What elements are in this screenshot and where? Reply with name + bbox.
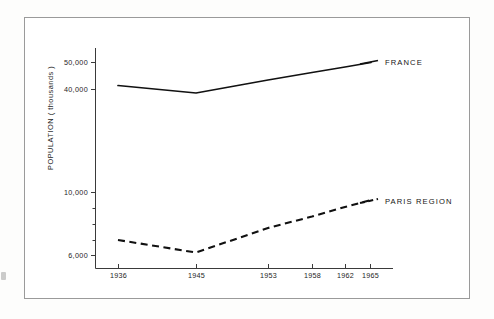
series-line-france bbox=[118, 63, 371, 94]
x-axis-label-1945: 1945 bbox=[188, 271, 205, 280]
series-line-paris-region bbox=[118, 200, 371, 253]
x-axis-label-1962: 1962 bbox=[337, 271, 354, 280]
y-axis-title: POPULATION ( thousands ) bbox=[46, 66, 55, 170]
x-axis-label-1936: 1936 bbox=[110, 271, 127, 280]
series-label-france: FRANCE bbox=[385, 58, 423, 67]
y-axis-label-10000: 10,000 bbox=[64, 188, 88, 197]
x-axis-label-1958: 1958 bbox=[304, 271, 321, 280]
x-axis-label-1953: 1953 bbox=[260, 271, 277, 280]
line-chart: 50,000 40,000 10,000 6,000 1936 1945 195… bbox=[0, 0, 494, 319]
y-axis-label-50000: 50,000 bbox=[64, 58, 88, 67]
x-axis-label-1965: 1965 bbox=[362, 271, 379, 280]
y-axis-label-40000: 40,000 bbox=[64, 85, 88, 94]
scanned-page: 50,000 40,000 10,000 6,000 1936 1945 195… bbox=[0, 0, 494, 319]
series-label-paris-region: PARIS REGION bbox=[385, 197, 453, 206]
y-axis-label-6000: 6,000 bbox=[68, 251, 88, 260]
